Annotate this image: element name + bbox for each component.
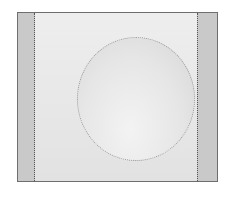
left-side-strip [18,13,35,181]
square-frame [17,12,218,182]
center-panel [35,13,197,181]
right-side-strip [197,13,217,181]
circular-disc [77,37,195,161]
